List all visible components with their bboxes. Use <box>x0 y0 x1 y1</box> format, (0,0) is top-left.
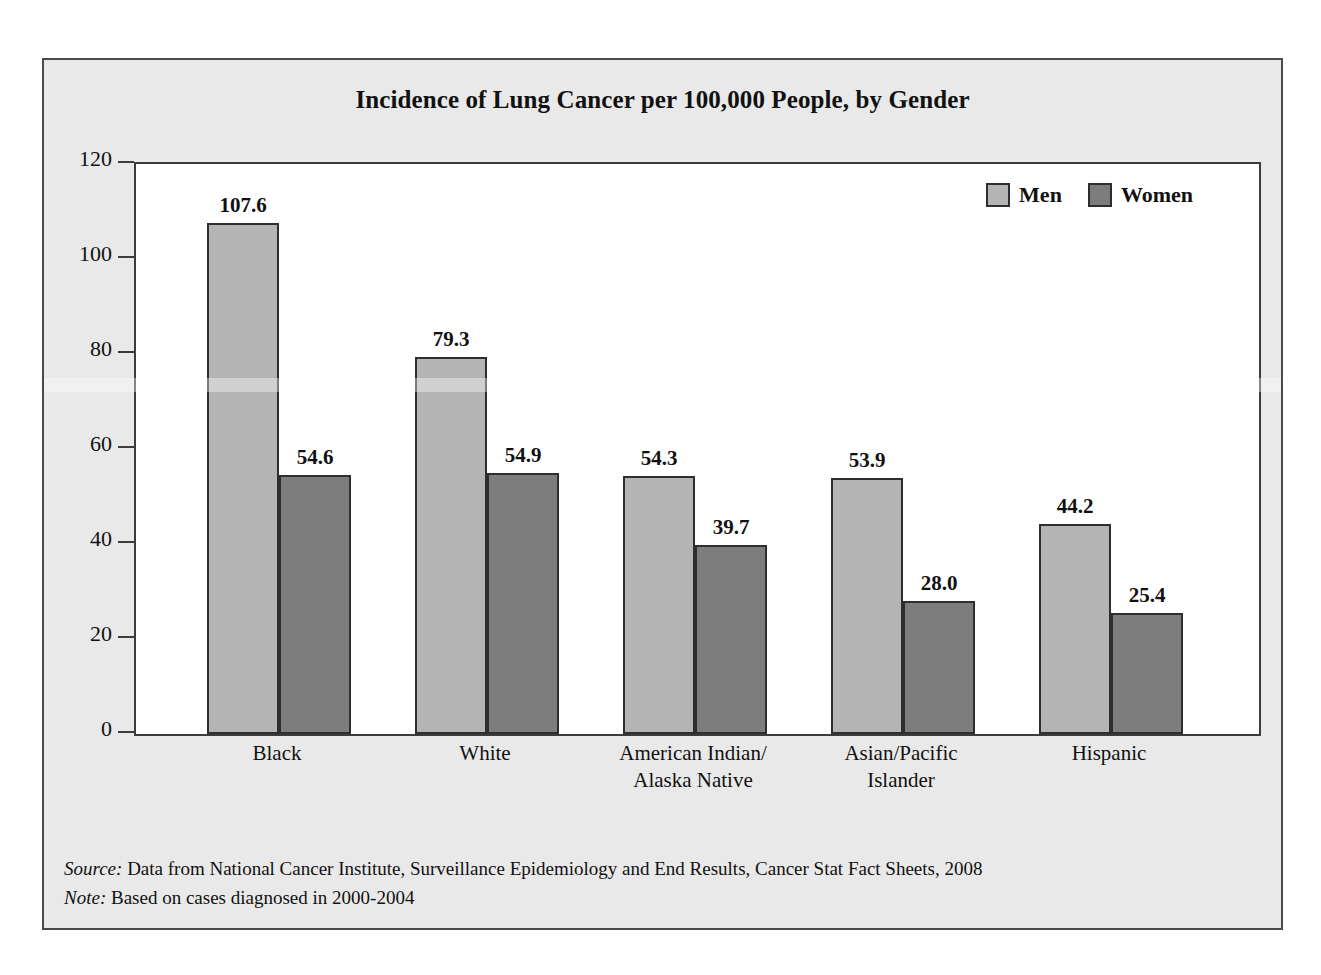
footnote-text: Based on cases diagnosed in 2000-2004 <box>106 887 414 908</box>
footnotes: Source: Data from National Cancer Instit… <box>64 855 982 912</box>
y-axis-tick-label: 120 <box>44 148 112 170</box>
bar-men-3 <box>831 478 903 734</box>
legend-entry-women: Women <box>1088 182 1193 208</box>
legend-label: Women <box>1121 182 1193 208</box>
y-axis-tick-label: 60 <box>44 433 112 455</box>
bar-value-label: 54.6 <box>297 445 334 470</box>
legend-swatch-icon <box>986 183 1010 207</box>
y-axis-tick <box>118 351 134 353</box>
legend-entry-men: Men <box>986 182 1062 208</box>
bar-women-0 <box>279 475 351 734</box>
y-axis-tick <box>118 541 134 543</box>
category-label-0: Black <box>253 740 302 767</box>
chart-legend: MenWomen <box>986 182 1193 208</box>
bar-value-label: 54.9 <box>505 443 542 468</box>
footnote-text: Data from National Cancer Institute, Sur… <box>122 858 982 879</box>
footnote-line-0: Source: Data from National Cancer Instit… <box>64 855 982 884</box>
figure-panel: Incidence of Lung Cancer per 100,000 Peo… <box>42 58 1283 930</box>
y-axis-tick-label: 0 <box>44 718 112 740</box>
bar-men-4 <box>1039 524 1111 734</box>
y-axis-tick <box>118 446 134 448</box>
bar-value-label: 54.3 <box>641 446 678 471</box>
legend-label: Men <box>1019 182 1062 208</box>
category-label-1: White <box>459 740 510 767</box>
bar-women-1 <box>487 473 559 734</box>
bar-men-0 <box>207 223 279 734</box>
y-axis-tick <box>118 161 134 163</box>
bar-men-2 <box>623 476 695 734</box>
y-axis-tick <box>118 636 134 638</box>
bar-value-label: 39.7 <box>713 515 750 540</box>
y-axis-tick <box>118 256 134 258</box>
bar-value-label: 107.6 <box>219 193 266 218</box>
footnote-label: Note: <box>64 887 106 908</box>
y-axis-tick-label: 20 <box>44 623 112 645</box>
y-axis-tick-label: 40 <box>44 528 112 550</box>
bar-women-2 <box>695 545 767 734</box>
bar-value-label: 25.4 <box>1129 583 1166 608</box>
y-axis-tick <box>118 731 134 733</box>
bar-value-label: 44.2 <box>1057 494 1094 519</box>
y-axis-tick-label: 80 <box>44 338 112 360</box>
footnote-line-1: Note: Based on cases diagnosed in 2000-2… <box>64 884 982 913</box>
legend-swatch-icon <box>1088 183 1112 207</box>
bar-men-1 <box>415 357 487 734</box>
bar-value-label: 79.3 <box>433 327 470 352</box>
bar-value-label: 53.9 <box>849 448 886 473</box>
footnote-label: Source: <box>64 858 122 879</box>
chart-title: Incidence of Lung Cancer per 100,000 Peo… <box>44 86 1281 114</box>
plot-area: 107.654.679.354.954.339.753.928.044.225.… <box>134 162 1261 736</box>
y-axis-tick-label: 100 <box>44 243 112 265</box>
bar-women-3 <box>903 601 975 734</box>
category-label-4: Hispanic <box>1072 740 1147 767</box>
category-label-2: American Indian/ Alaska Native <box>619 740 767 794</box>
category-label-3: Asian/Pacific Islander <box>844 740 957 794</box>
bar-value-label: 28.0 <box>921 571 958 596</box>
bar-women-4 <box>1111 613 1183 734</box>
